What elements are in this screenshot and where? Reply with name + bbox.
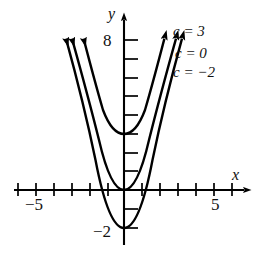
- curve-label-c-equals-3: c = 3: [173, 24, 205, 39]
- parabola-family-figure: y x 8 −2 −5 5 c = 3 c = 0 c = −2: [0, 0, 257, 259]
- y-tick-label-negative-2: −2: [93, 223, 111, 240]
- y-axis-label: y: [108, 6, 115, 22]
- curve-label-c-equals-negative-2: c = −2: [173, 65, 215, 80]
- curve-label-c-equals-0: c = 0: [175, 46, 207, 61]
- x-axis-label: x: [232, 167, 239, 183]
- y-tick-label-8: 8: [103, 32, 112, 49]
- x-tick-label-negative-5: −5: [25, 196, 43, 213]
- x-tick-label-5: 5: [211, 196, 220, 213]
- plot-canvas: [0, 0, 257, 259]
